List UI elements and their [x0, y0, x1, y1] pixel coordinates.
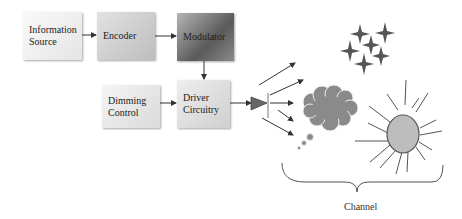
led-icon: [251, 93, 268, 118]
brace-icon: [282, 163, 443, 192]
sun-icon: [355, 80, 442, 174]
connector-arrows: [82, 35, 251, 103]
cloud-icon: [297, 85, 358, 150]
diagram-graphics: [0, 0, 462, 219]
stars-icon: [340, 22, 395, 75]
channel-label: Channel: [344, 201, 377, 212]
light-ray-arrows: [259, 63, 303, 135]
